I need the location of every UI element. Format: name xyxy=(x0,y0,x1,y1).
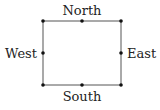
point-bottom-right xyxy=(119,83,123,87)
label-south: South xyxy=(63,89,102,104)
points xyxy=(41,19,123,87)
label-east: East xyxy=(127,46,157,61)
label-north: North xyxy=(62,3,102,18)
point-bottom-mid xyxy=(80,83,84,87)
point-mid-left xyxy=(41,51,45,55)
point-top-right xyxy=(119,19,123,23)
label-west: West xyxy=(5,46,38,61)
point-top-mid xyxy=(80,19,84,23)
compass-rectangle-diagram: North South West East xyxy=(0,0,160,110)
point-top-left xyxy=(41,19,45,23)
point-mid-right xyxy=(119,51,123,55)
rectangle-outline xyxy=(43,21,121,85)
point-bottom-left xyxy=(41,83,45,87)
